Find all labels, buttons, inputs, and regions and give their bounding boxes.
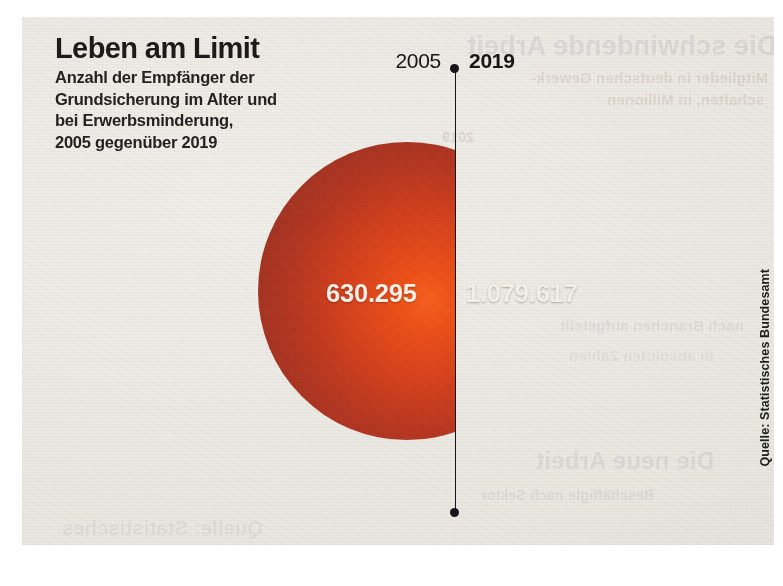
value-label-2019: 1.079.617 [466, 279, 578, 308]
infographic-panel: Die schwindende Arbeit Mitglieder in deu… [22, 17, 774, 545]
scanned-page: Die schwindende Arbeit Mitglieder in deu… [0, 0, 783, 586]
divider-dot-bottom [450, 508, 459, 517]
source-credit: Quelle: Statistisches Bundesamt [758, 269, 772, 467]
headline-block: Leben am Limit Anzahl der Empfänger der … [55, 33, 355, 154]
value-label-2005: 630.295 [326, 279, 417, 308]
year-label-2005: 2005 [395, 49, 441, 73]
chart-subtitle: Anzahl der Empfänger der Grundsicherung … [55, 67, 355, 154]
divider-dot-top [450, 64, 459, 73]
year-label-2019: 2019 [469, 49, 515, 73]
chart-title: Leben am Limit [55, 33, 355, 64]
divider-line [455, 68, 457, 514]
